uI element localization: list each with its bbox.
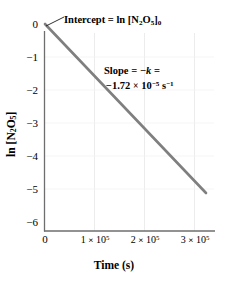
y-tick-label-1: −1 <box>20 52 38 63</box>
intercept-annotation: Intercept = ln [N2O5]0 <box>64 15 161 27</box>
x-tick-label-1e5: 1 × 105 <box>70 235 120 245</box>
intercept-leader-line <box>46 17 64 26</box>
x-tick-base: 10 <box>96 234 106 245</box>
slope-value: −1.72 <box>106 80 130 91</box>
x-tick-label-2e5: 2 × 105 <box>120 235 170 245</box>
slope-annotation-line2: −1.72 × 10−5 s−1 <box>106 81 174 92</box>
slope-annotation: Slope = −k = −1.72 × 10−5 s−1 <box>104 66 174 91</box>
intercept-mid: O <box>142 14 150 25</box>
y-axis-title: ln [N2O5] <box>6 70 19 198</box>
slope-unit-exponent: −1 <box>166 80 174 88</box>
x-axis-title: Time (s) <box>0 260 228 272</box>
y-tick-label-5: −5 <box>20 184 38 195</box>
x-tick-exponent: 5 <box>106 234 109 241</box>
y-tick-label-4: −4 <box>20 151 38 162</box>
slope-minus-k: −k <box>140 65 152 76</box>
slope-lead-text: Slope = <box>104 65 140 76</box>
y-axis-title-prefix: ln [N <box>5 132 17 157</box>
x-tick-label-0: 0 <box>39 234 51 245</box>
x-tick-exponent: 5 <box>156 234 159 241</box>
y-axis-title-mid: O <box>5 119 17 128</box>
y-tick-label-2: −2 <box>20 85 38 96</box>
slope-equals: = <box>151 65 160 76</box>
y-axis-title-suffix: ] <box>5 112 17 116</box>
x-tick-exponent: 5 <box>206 234 209 241</box>
y-tick-label-6: −6 <box>20 217 38 228</box>
gridlines <box>45 33 215 231</box>
intercept-label: Intercept = ln [N <box>64 14 139 25</box>
x-tick-base: 10 <box>196 234 206 245</box>
x-tick-base: 10 <box>146 234 156 245</box>
y-axis-title-sub-5: 5 <box>9 116 18 120</box>
y-axis-title-sub-2: 2 <box>9 128 18 132</box>
y-tick-label-0: 0 <box>20 19 38 30</box>
intercept-sub-0: 0 <box>158 19 162 27</box>
kinetics-plot-figure: 0 −1 −2 −3 −4 −5 −6 0 1 × 105 2 × 105 3 … <box>0 0 228 281</box>
slope-base: 10 <box>139 80 152 91</box>
slope-annotation-line1: Slope = −k = <box>104 65 160 76</box>
data-line <box>45 24 206 193</box>
y-tick-label-3: −3 <box>20 118 38 129</box>
x-tick-label-3e5: 3 × 105 <box>170 235 220 245</box>
